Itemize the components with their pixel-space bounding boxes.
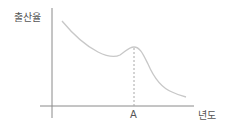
birth-rate-chart: 출산율 년도 A: [0, 0, 233, 130]
marker-a-label: A: [130, 110, 137, 120]
birth-rate-curve: [62, 21, 186, 97]
x-axis-label: 년도: [198, 111, 216, 121]
y-axis-label: 출산율: [14, 13, 41, 23]
